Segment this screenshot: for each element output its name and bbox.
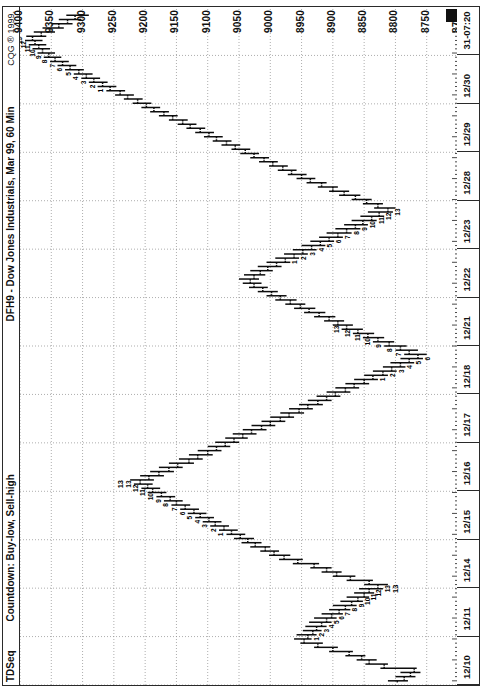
- td-count-label: 6: [179, 511, 186, 515]
- date-axis-separator: [457, 200, 479, 201]
- study-name-label[interactable]: TDSeq: [3, 650, 19, 685]
- date-axis-separator: [457, 684, 479, 685]
- price-plot-area[interactable]: 1234567891011121312345678910111213123456…: [19, 6, 459, 686]
- td-count-label: 12: [375, 589, 382, 597]
- date-tick-label: 12/11: [461, 607, 472, 630]
- td-count-label: 8: [351, 607, 358, 611]
- td-count-label: 12: [385, 212, 392, 220]
- td-count-label: 3: [309, 252, 316, 256]
- td-count-label: 10: [364, 338, 371, 346]
- date-tick-label: 31-07:20: [461, 11, 472, 49]
- date-axis-separator: [457, 103, 479, 104]
- chart-title-bar: CQG ® 1999. TDSeq Countdown: Buy-low, Se…: [2, 6, 20, 686]
- td-count-label: 4: [406, 365, 413, 369]
- cqg-chart-window: CQG ® 1999. TDSeq Countdown: Buy-low, Se…: [0, 0, 500, 694]
- td-count-label: 2: [318, 633, 325, 637]
- td-count-label: 9: [361, 227, 368, 231]
- td-count-label: 11: [139, 489, 146, 496]
- td-count-label: 1: [379, 377, 386, 381]
- td-count-label: 7: [171, 507, 178, 511]
- date-axis-separator: [457, 539, 479, 540]
- td-count-label: 2: [210, 528, 217, 532]
- date-tick-label: 12/21: [461, 316, 472, 340]
- td-count-label: 5: [415, 361, 422, 365]
- td-count-label: 8: [162, 503, 169, 507]
- td-count-label: 2: [389, 373, 396, 377]
- copyright-label: CQG ® 1999.: [3, 7, 19, 66]
- td-count-label: 9: [35, 55, 42, 59]
- td-count-label: 6: [338, 616, 345, 620]
- td-count-label: 4: [194, 520, 201, 524]
- date-tick-label: 12/22: [461, 268, 472, 292]
- symbol-title-label[interactable]: DFH9 - Dow Jones Industrials, Mar 99, 60…: [3, 106, 19, 471]
- date-axis-separator: [457, 151, 479, 152]
- td-count-label: 4: [328, 624, 335, 628]
- td-count-label: 3: [80, 80, 87, 84]
- ohlc-bar-chart: 1234567891011121312345678910111213123456…: [20, 7, 458, 685]
- td-count-label: 13: [333, 325, 340, 333]
- td-count-label: 13: [125, 480, 132, 488]
- td-count-label: 1: [291, 260, 298, 264]
- date-tick-label: 12/18: [461, 365, 472, 389]
- date-tick-label: 12/30: [461, 74, 472, 98]
- td-count-label: 8: [353, 231, 360, 235]
- date-axis-separator: [457, 54, 479, 55]
- date-axis-separator: [457, 636, 479, 637]
- countdown-completion-marker: 13: [116, 480, 125, 488]
- screenshot-page: CQG ® 1999. TDSeq Countdown: Buy-low, Se…: [0, 0, 500, 694]
- td-count-label: 3: [323, 628, 330, 632]
- td-count-label: 7: [344, 612, 351, 616]
- td-count-label: 11: [378, 217, 385, 224]
- td-count-label: 2: [300, 256, 307, 260]
- td-count-label: 9: [155, 499, 162, 503]
- td-count-label: 13: [20, 36, 23, 44]
- td-count-label: 6: [335, 239, 342, 243]
- date-axis-separator: [457, 345, 479, 346]
- td-count-label: 5: [65, 72, 72, 76]
- date-tick-label: 12/17: [461, 413, 472, 437]
- date-axis-separator: [457, 393, 479, 394]
- td-count-label: 4: [318, 248, 325, 252]
- td-count-label: 1: [97, 89, 104, 93]
- td-count-label: 12: [132, 484, 139, 492]
- date-axis-separator: [457, 490, 479, 491]
- td-count-label: 13: [394, 208, 401, 216]
- date-tick-label: 12/10: [461, 655, 472, 679]
- td-count-label: 1: [217, 532, 224, 536]
- td-count-label: 10: [369, 221, 376, 229]
- td-count-label: 10: [147, 493, 154, 501]
- td-count-label: 6: [424, 356, 431, 360]
- date-axis-separator: [457, 248, 479, 249]
- date-tick-label: 12/23: [461, 219, 472, 243]
- td-count-label: 8: [41, 59, 48, 63]
- td-count-label: 7: [344, 235, 351, 239]
- td-count-label: 5: [326, 243, 333, 247]
- td-count-label: 5: [333, 620, 340, 624]
- td-count-label: 4: [72, 76, 79, 80]
- study-mode-label[interactable]: Countdown: Buy-low, Sell-high: [3, 474, 19, 647]
- td-count-label: 13: [384, 585, 391, 593]
- date-axis-separator: [457, 587, 479, 588]
- date-tick-label: 12/14: [461, 558, 472, 582]
- date-tick-label: 12/15: [461, 510, 472, 534]
- date-axis[interactable]: 12/1012/1112/1412/1512/1612/1712/1812/21…: [457, 6, 480, 686]
- td-count-label: 11: [354, 334, 361, 341]
- date-tick-label: 12/16: [461, 462, 472, 486]
- date-axis-separator: [457, 442, 479, 443]
- date-tick-label: 12/29: [461, 123, 472, 147]
- countdown-completion-marker: 13: [391, 585, 400, 593]
- date-axis-separator: [457, 297, 479, 298]
- td-count-label: 1: [313, 637, 320, 641]
- td-count-label: 8: [386, 348, 393, 352]
- td-count-label: 6: [56, 68, 63, 72]
- td-count-label: 3: [398, 369, 405, 373]
- td-count-label: 9: [375, 344, 382, 348]
- date-tick-label: 12/28: [461, 171, 472, 195]
- td-count-label: 3: [201, 524, 208, 528]
- td-count-label: 7: [49, 63, 56, 67]
- td-count-label: 2: [89, 84, 96, 88]
- td-count-label: 12: [344, 329, 351, 337]
- td-count-label: 5: [186, 515, 193, 519]
- td-count-label: 7: [395, 352, 402, 356]
